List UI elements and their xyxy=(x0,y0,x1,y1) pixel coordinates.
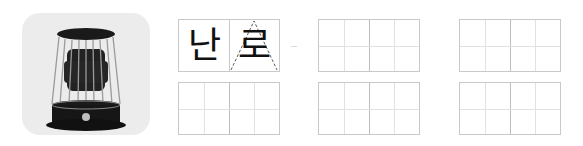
heater-picture xyxy=(22,13,150,135)
practice-box-4[interactable] xyxy=(178,82,280,135)
syllable-1: 난 xyxy=(179,20,229,71)
practice-box-6[interactable] xyxy=(459,82,561,135)
syllable-2: 로 xyxy=(229,20,279,71)
practice-box-5[interactable] xyxy=(318,82,420,135)
practice-box-1: 난 로 xyxy=(178,19,280,72)
practice-box-3[interactable] xyxy=(459,19,561,72)
separator-dot xyxy=(291,46,297,47)
practice-box-2[interactable] xyxy=(318,19,420,72)
kerosene-heater-icon xyxy=(22,13,150,135)
